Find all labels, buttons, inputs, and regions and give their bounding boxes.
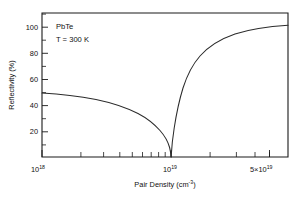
y-tick-label: 80 (30, 49, 38, 58)
y-tick-label: 100 (26, 23, 38, 32)
annotation-material: PbTe (56, 22, 73, 31)
x-axis-label: Pair Density (cm-3) (134, 179, 195, 189)
annotation-temperature: T = 300 K (56, 35, 89, 44)
plot-annotations: PbTe T = 300 K (56, 22, 89, 44)
y-axis-label: Reflectivity (%) (7, 60, 16, 109)
y-tick-label: 60 (30, 75, 38, 84)
curve-lower-branch (42, 93, 171, 157)
svg-text:Pair Density (cm-3): Pair Density (cm-3) (134, 179, 195, 189)
svg-text:Reflectivity (%): Reflectivity (%) (7, 60, 16, 109)
x-tick-labels: 1018 1019 5×1019 (31, 164, 273, 174)
x-tick-label-decade1: 1018 (31, 164, 45, 174)
x-axis-minor-ticks (81, 152, 270, 157)
y-tick-label: 40 (30, 101, 38, 110)
x-tick-label-decade2: 1019 (163, 164, 177, 174)
y-axis-major-ticks (42, 27, 48, 132)
x-tick-label-5e19: 5×1019 (250, 164, 273, 174)
y-tick-labels: 20 40 60 80 100 (26, 23, 38, 137)
curve-upper-branch (171, 25, 288, 157)
reflectivity-figure: 20 40 60 80 100 1018 1019 5×1019 Pair De… (0, 0, 307, 198)
chart-canvas: 20 40 60 80 100 1018 1019 5×1019 Pair De… (0, 0, 307, 198)
x-axis-major-ticks (42, 150, 270, 157)
y-tick-label: 20 (30, 127, 38, 136)
